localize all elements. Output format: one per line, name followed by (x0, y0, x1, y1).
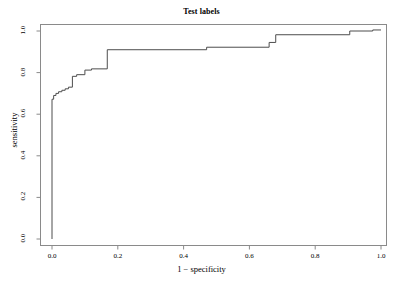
y-axis-title: sensitivity (9, 90, 19, 170)
x-tick-label: 0.6 (234, 252, 264, 260)
y-tick-label: 1.0 (19, 18, 27, 42)
roc-plot-panel: Test labels 0.00.20.40.60.81.0 0.00.20.4… (0, 0, 403, 286)
x-axis-ticks (52, 246, 381, 250)
y-tick-label: 0.0 (19, 226, 27, 250)
y-tick-label: 0.2 (19, 184, 27, 208)
plot-frame (41, 25, 387, 246)
x-tick-label: 1.0 (366, 252, 396, 260)
x-tick-label: 0.8 (300, 252, 330, 260)
y-axis-ticks (37, 31, 41, 239)
x-axis-title: 1 − specificity (0, 264, 403, 274)
y-tick-label: 0.8 (19, 60, 27, 84)
x-tick-label: 0.4 (169, 252, 199, 260)
x-tick-label: 0.0 (37, 252, 67, 260)
roc-chart-svg (0, 0, 403, 286)
y-tick-label: 0.6 (19, 101, 27, 125)
x-tick-label: 0.2 (103, 252, 133, 260)
y-tick-label: 0.4 (19, 143, 27, 167)
roc-curve-line (52, 30, 381, 239)
roc-curve-group (52, 30, 381, 239)
plot-box-border (41, 25, 387, 246)
